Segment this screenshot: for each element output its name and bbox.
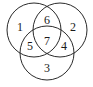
region-label-2: 2 xyxy=(70,20,76,34)
region-label-3: 3 xyxy=(44,61,50,75)
region-label-7: 7 xyxy=(44,34,50,48)
region-label-4: 4 xyxy=(61,39,67,53)
region-label-1: 1 xyxy=(17,20,23,34)
region-label-5: 5 xyxy=(27,39,33,53)
circle-a xyxy=(7,3,61,57)
circle-b xyxy=(33,3,87,57)
region-label-6: 6 xyxy=(44,13,50,27)
venn-diagram: 1 6 2 5 7 4 3 xyxy=(0,0,93,87)
